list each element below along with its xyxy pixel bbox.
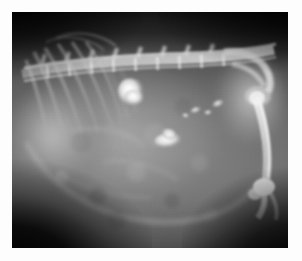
radiograph-canvas xyxy=(12,12,288,248)
screenshot-root: radiograph lateral abdominal projection … xyxy=(0,0,302,261)
radiograph-image xyxy=(12,12,288,248)
film-grain-overlay xyxy=(12,12,288,248)
